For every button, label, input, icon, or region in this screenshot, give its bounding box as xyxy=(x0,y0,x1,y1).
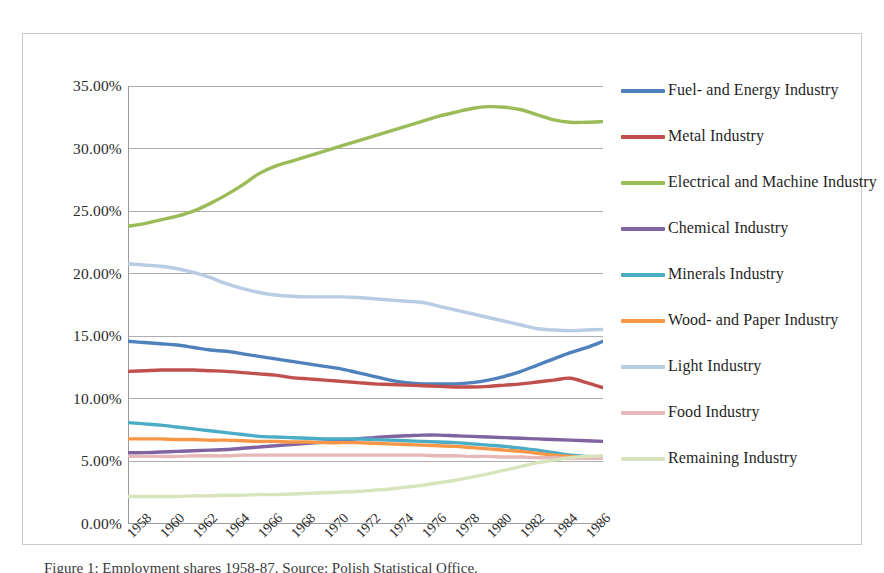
legend-item[interactable]: Remaining Industry xyxy=(621,448,879,468)
legend-item[interactable]: Light Industry xyxy=(621,356,879,376)
y-axis-tick-label: 30.00% xyxy=(73,140,122,158)
legend-item[interactable]: Chemical Industry xyxy=(621,218,879,238)
legend-color-swatch xyxy=(621,227,665,231)
plot-svg xyxy=(128,86,603,524)
legend-item[interactable]: Electrical and Machine Industry xyxy=(621,172,879,192)
series-line xyxy=(128,455,603,458)
chart-legend: Fuel- and Energy IndustryMetal IndustryE… xyxy=(621,80,879,494)
y-axis-tick-label: 10.00% xyxy=(73,390,122,408)
y-axis-tick-label: 5.00% xyxy=(81,452,122,470)
legend-item-label: Wood- and Paper Industry xyxy=(668,310,838,330)
legend-color-swatch xyxy=(621,89,665,93)
y-axis-tick-label: 25.00% xyxy=(73,202,122,220)
legend-color-swatch xyxy=(621,365,665,369)
legend-color-swatch xyxy=(621,273,665,277)
legend-color-swatch xyxy=(621,319,665,323)
series-line xyxy=(128,341,603,384)
legend-color-swatch xyxy=(621,411,665,415)
y-axis-tick-label: 35.00% xyxy=(73,77,122,95)
y-axis-labels: 0.00%5.00%10.00%15.00%20.00%25.00%30.00%… xyxy=(23,86,122,524)
legend-item-label: Light Industry xyxy=(668,356,761,376)
y-axis-tick-label: 0.00% xyxy=(81,515,122,533)
legend-item[interactable]: Fuel- and Energy Industry xyxy=(621,80,879,100)
legend-color-swatch xyxy=(621,181,665,185)
chart-frame: 0.00%5.00%10.00%15.00%20.00%25.00%30.00%… xyxy=(22,33,862,545)
plot-area xyxy=(128,86,603,524)
series-line xyxy=(128,107,603,227)
legend-item-label: Electrical and Machine Industry xyxy=(668,172,877,192)
legend-item-label: Fuel- and Energy Industry xyxy=(668,80,839,100)
figure-caption: Figure 1: Employment shares 1958-87. Sou… xyxy=(44,560,864,573)
y-axis-tick-label: 20.00% xyxy=(73,265,122,283)
legend-item-label: Metal Industry xyxy=(668,126,764,146)
legend-color-swatch xyxy=(621,457,665,461)
series-line xyxy=(128,370,603,388)
legend-item[interactable]: Metal Industry xyxy=(621,126,879,146)
legend-item-label: Food Industry xyxy=(668,402,760,422)
legend-item[interactable]: Wood- and Paper Industry xyxy=(621,310,879,330)
legend-item-label: Chemical Industry xyxy=(668,218,788,238)
legend-color-swatch xyxy=(621,135,665,139)
legend-item[interactable]: Food Industry xyxy=(621,402,879,422)
legend-item[interactable]: Minerals Industry xyxy=(621,264,879,284)
legend-item-label: Minerals Industry xyxy=(668,264,784,284)
y-axis-tick-label: 15.00% xyxy=(73,327,122,345)
series-line xyxy=(128,456,603,497)
legend-item-label: Remaining Industry xyxy=(668,448,797,468)
